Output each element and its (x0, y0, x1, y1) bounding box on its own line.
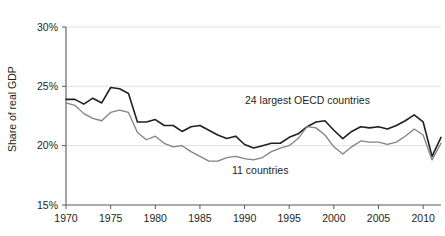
chart-container: 15%20%25%30% 197019751980198519901995200… (0, 0, 445, 236)
x-tick-label-2005: 2005 (367, 212, 391, 224)
x-tick-label-1980: 1980 (144, 212, 168, 224)
x-tick-label-2010: 2010 (411, 212, 435, 224)
x-tick-label-1985: 1985 (188, 212, 212, 224)
line-chart: 15%20%25%30% 197019751980198519901995200… (0, 0, 445, 236)
x-tick-label-1975: 1975 (99, 212, 123, 224)
y-tick-label-15: 15% (37, 199, 58, 211)
y-tick-label-30: 30% (37, 21, 58, 33)
axes-group (66, 27, 441, 205)
x-tick-label-1990: 1990 (233, 212, 257, 224)
y-axis-label: Share of real GDP (6, 66, 18, 152)
x-tick-label-1995: 1995 (278, 212, 302, 224)
y-tick-label-20: 20% (37, 139, 58, 151)
series-line-1 (66, 103, 441, 161)
x-tick-label-2000: 2000 (322, 212, 346, 224)
series-annotation-1: 11 countries (232, 164, 288, 176)
x-tick-label-1970: 1970 (54, 212, 78, 224)
x-tick-group: 197019751980198519901995200020052010 (54, 205, 435, 224)
y-tick-group: 15%20%25%30% (37, 21, 66, 211)
y-tick-label-25: 25% (37, 80, 58, 92)
series-annotation-0: 24 largest OECD countries (245, 94, 370, 106)
